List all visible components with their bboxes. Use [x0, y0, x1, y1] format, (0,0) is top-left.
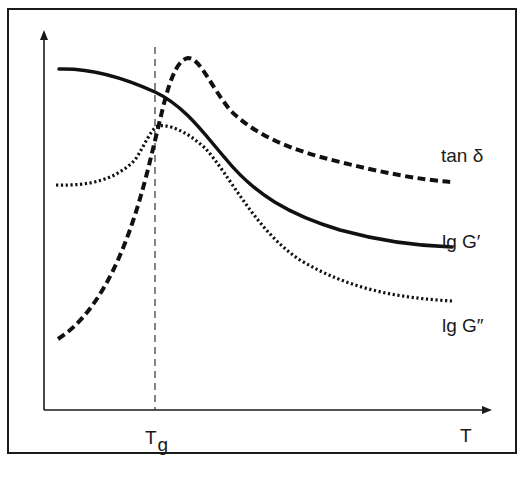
curve-lg-g-double-prime	[56, 126, 452, 301]
label-tan-delta: tan δ	[441, 146, 483, 165]
curve-lg-g-prime	[59, 69, 452, 247]
label-tg-main: T	[145, 427, 157, 448]
x-axis-label: T	[460, 426, 472, 445]
label-tg-subscript: g	[158, 434, 169, 455]
curve-tan-delta	[58, 58, 452, 339]
label-tg: Tg	[145, 428, 168, 454]
label-lg-g-prime: lg G′	[442, 232, 480, 251]
label-lg-g-double-prime: lg G″	[442, 316, 484, 335]
